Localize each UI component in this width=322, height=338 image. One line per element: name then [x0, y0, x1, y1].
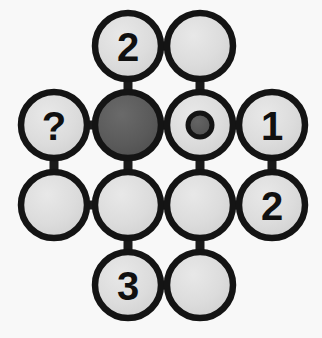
edge-layer	[54, 46, 272, 285]
node-label-r4c2: 3	[117, 264, 139, 308]
node-r1c2-two[interactable]: 2	[95, 13, 161, 79]
node-r2c2-filled-dark[interactable]	[95, 92, 161, 158]
node-label-r1c2: 2	[117, 25, 139, 69]
node-r1c3-empty[interactable]	[167, 13, 233, 79]
node-r4c2-three[interactable]: 3	[95, 252, 161, 318]
node-r3c4-two[interactable]: 2	[239, 172, 305, 238]
node-r2c3-dot[interactable]	[167, 92, 233, 158]
node-r3c3-empty[interactable]	[167, 172, 233, 238]
node-label-r2c1: ?	[42, 104, 66, 148]
node-r3c1-empty[interactable]	[21, 172, 87, 238]
node-layer: 2?123	[21, 13, 305, 318]
node-label-r3c4: 2	[261, 184, 283, 228]
node-circle-r2c2[interactable]	[95, 92, 161, 158]
node-r4c3-empty[interactable]	[167, 252, 233, 318]
node-r2c1-question[interactable]: ?	[21, 92, 87, 158]
node-circle-r3c1[interactable]	[21, 172, 87, 238]
node-r3c2-empty[interactable]	[95, 172, 161, 238]
node-label-r2c4: 1	[261, 104, 283, 148]
filled-dot-icon	[188, 113, 212, 137]
puzzle-graph: 2?123	[0, 0, 322, 338]
node-circle-r3c3[interactable]	[167, 172, 233, 238]
node-circle-r3c2[interactable]	[95, 172, 161, 238]
puzzle-canvas: 2?123	[0, 0, 322, 338]
node-circle-r1c3[interactable]	[167, 13, 233, 79]
node-r2c4-one[interactable]: 1	[239, 92, 305, 158]
node-circle-r4c3[interactable]	[167, 252, 233, 318]
